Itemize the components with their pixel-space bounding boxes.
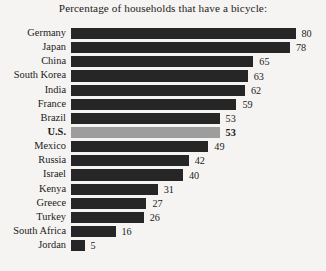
bar-value-label: 5 xyxy=(91,240,96,252)
bar-track: 16 xyxy=(71,226,326,237)
chart-row: Germany80 xyxy=(0,27,326,41)
bar-value-label: 59 xyxy=(242,99,252,111)
chart-row: France59 xyxy=(0,98,326,112)
chart-rows: Germany80Japan78China65South Korea63Indi… xyxy=(0,27,326,253)
bar-track: 26 xyxy=(71,212,326,223)
bar xyxy=(71,155,189,166)
chart-row: Greece27 xyxy=(0,197,326,211)
bar xyxy=(71,113,220,124)
bar-value-label: 63 xyxy=(254,71,264,83)
category-label: India xyxy=(0,84,66,96)
bar xyxy=(71,85,245,96)
bar xyxy=(71,141,209,152)
bar-track: 31 xyxy=(71,184,326,195)
category-label: China xyxy=(0,55,66,67)
bar-track: 62 xyxy=(71,85,326,96)
category-label: Israel xyxy=(0,168,66,180)
bar-track: 53 xyxy=(71,113,326,124)
bar-value-label: 31 xyxy=(164,184,174,196)
bar-track: 5 xyxy=(71,240,326,251)
bar xyxy=(71,42,290,53)
chart-row: South Korea63 xyxy=(0,69,326,83)
bar xyxy=(71,226,116,237)
category-label: U.S. xyxy=(0,126,66,138)
bar-value-label: 62 xyxy=(251,85,261,97)
category-label: South Korea xyxy=(0,69,66,81)
chart-title: Percentage of households that have a bic… xyxy=(0,2,326,14)
bar-value-label: 27 xyxy=(152,198,162,210)
bar-value-label: 80 xyxy=(302,28,312,40)
chart-row: South Africa16 xyxy=(0,225,326,239)
category-label: Jordan xyxy=(0,239,66,251)
bar xyxy=(71,198,147,209)
bar xyxy=(71,56,254,67)
chart-row: Kenya31 xyxy=(0,183,326,197)
bar xyxy=(71,184,158,195)
chart-row: Turkey26 xyxy=(0,211,326,225)
bar-value-label: 53 xyxy=(226,113,236,125)
bar-track: 27 xyxy=(71,198,326,209)
bar xyxy=(71,28,296,39)
chart-row: Japan78 xyxy=(0,41,326,55)
bar-track: 53 xyxy=(71,127,326,138)
bar-value-label: 40 xyxy=(189,170,199,182)
bar-track: 63 xyxy=(71,70,326,81)
bar-value-label: 26 xyxy=(150,212,160,224)
category-label: Greece xyxy=(0,197,66,209)
category-label: Turkey xyxy=(0,211,66,223)
category-label: Russia xyxy=(0,154,66,166)
bar-value-label: 16 xyxy=(122,226,132,238)
chart-row: Mexico49 xyxy=(0,140,326,154)
bar-value-label: 53 xyxy=(226,127,236,139)
bar xyxy=(71,70,248,81)
bar-track: 80 xyxy=(71,28,326,39)
chart-row: Russia42 xyxy=(0,154,326,168)
bar xyxy=(71,240,85,251)
bar xyxy=(71,169,184,180)
chart-row: India62 xyxy=(0,84,326,98)
chart-row: Brazil53 xyxy=(0,112,326,126)
bar-value-label: 65 xyxy=(259,56,269,68)
category-label: Kenya xyxy=(0,183,66,195)
bar xyxy=(71,212,144,223)
bicycle-ownership-bar-chart: Percentage of households that have a bic… xyxy=(0,0,326,271)
bar-value-label: 78 xyxy=(296,42,306,54)
chart-row: Israel40 xyxy=(0,168,326,182)
bar-track: 40 xyxy=(71,169,326,180)
bar-track: 42 xyxy=(71,155,326,166)
bar-track: 49 xyxy=(71,141,326,152)
category-label: South Africa xyxy=(0,225,66,237)
category-label: Brazil xyxy=(0,112,66,124)
bar-track: 78 xyxy=(71,42,326,53)
category-label: Mexico xyxy=(0,140,66,152)
bar-track: 59 xyxy=(71,99,326,110)
category-label: France xyxy=(0,98,66,110)
bar-value-label: 42 xyxy=(195,155,205,167)
category-label: Germany xyxy=(0,27,66,39)
chart-row: U.S.53 xyxy=(0,126,326,140)
bar-track: 65 xyxy=(71,56,326,67)
chart-row: China65 xyxy=(0,55,326,69)
chart-row: Jordan5 xyxy=(0,239,326,253)
bar xyxy=(71,127,220,138)
category-label: Japan xyxy=(0,41,66,53)
bar-value-label: 49 xyxy=(214,141,224,153)
bar xyxy=(71,99,237,110)
